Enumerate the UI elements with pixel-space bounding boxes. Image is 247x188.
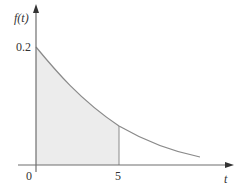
chart-canvas: [0, 0, 247, 188]
y-axis-label: f(t): [14, 12, 29, 24]
x-axis-label: t: [224, 173, 227, 185]
x-axis-arrow-icon: [225, 162, 234, 168]
y-tick-label: 0.2: [16, 41, 31, 53]
shaded-area: [36, 47, 119, 165]
x-tick-label-5: 5: [115, 170, 121, 182]
y-axis-arrow-icon: [33, 4, 39, 13]
x-tick-label-0: 0: [26, 170, 32, 182]
